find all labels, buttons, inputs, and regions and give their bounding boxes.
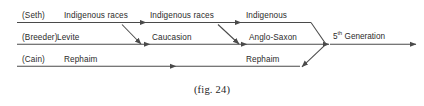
node-cain-stage-2: Rephaim <box>246 56 279 64</box>
convergence-to-bottom-row <box>302 44 326 67</box>
node-seth-stage-1: Indigenous races <box>64 12 128 20</box>
crosslink-1-top-to-middle <box>122 25 141 45</box>
top-row-to-convergence <box>311 23 326 45</box>
source-label-breeder: (Breeder) <box>22 34 57 42</box>
crosslink-2-top-to-middle <box>218 25 239 45</box>
node-seth-stage-3: Indigenous <box>246 12 287 20</box>
figure-caption: (fig. 24) <box>0 84 424 95</box>
outcome-generation-word: Generation <box>342 32 385 41</box>
node-cain-stage-1: Rephaim <box>64 56 97 64</box>
figure-24-diagram: (Seth) Indigenous races Indigenous races… <box>0 0 424 106</box>
source-label-cain: (Cain) <box>22 56 45 64</box>
outcome-generation-label: 5th Generation <box>333 33 385 41</box>
node-seth-stage-2: Indigenous races <box>150 12 214 20</box>
node-breeder-stage-3: Anglo-Saxon <box>249 34 297 42</box>
node-breeder-stage-2: Caucasion <box>152 34 192 42</box>
node-breeder-stage-1: Levite <box>57 34 79 42</box>
source-label-seth: (Seth) <box>22 12 45 20</box>
